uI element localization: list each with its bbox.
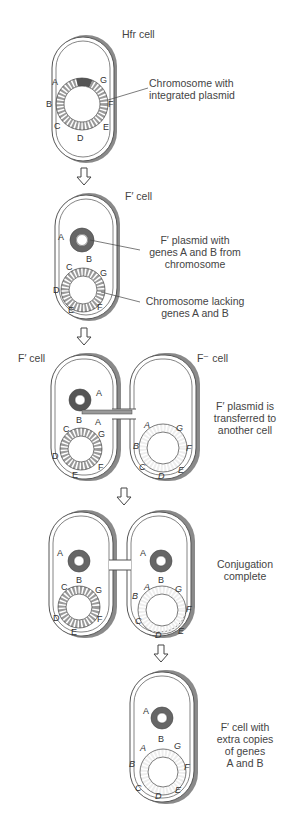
down-arrow-icon: [117, 488, 131, 505]
f-prime-cell-label: F′ cell: [125, 190, 152, 202]
svg-text:D: D: [53, 285, 60, 295]
svg-text:F: F: [97, 614, 103, 624]
f-prime-cell: A B C G D E F: [53, 193, 140, 321]
svg-text:C: C: [135, 616, 142, 626]
svg-text:G: G: [174, 741, 181, 751]
svg-text:D: D: [52, 451, 59, 461]
svg-text:F: F: [97, 302, 103, 312]
svg-text:A: A: [57, 548, 63, 558]
svg-text:B: B: [129, 759, 135, 769]
svg-text:A: A: [52, 77, 58, 87]
hfr-cell-label: Hfr cell: [122, 28, 155, 40]
svg-text:D: D: [155, 791, 162, 801]
svg-text:B: B: [133, 441, 139, 451]
svg-text:F: F: [186, 443, 192, 453]
svg-text:E: E: [71, 627, 77, 637]
chromosome-callout-line1: Chromosome with: [149, 77, 234, 89]
svg-text:E: E: [175, 785, 182, 795]
svg-text:A: A: [140, 548, 146, 558]
down-arrow-icon: [77, 168, 91, 185]
svg-text:D: D: [155, 630, 162, 640]
svg-text:B: B: [46, 99, 52, 109]
svg-text:C: C: [54, 121, 61, 131]
svg-text:B: B: [158, 575, 164, 585]
complete-caption: Conjugation complete: [205, 558, 285, 582]
down-arrow-icon: [154, 645, 168, 662]
complete-stage: A B C G D F E A B A G B F C E D: [49, 510, 195, 640]
result-caption: F′ cell with extra copies of genes A and…: [205, 721, 285, 769]
svg-text:G: G: [98, 429, 105, 439]
svg-text:D: D: [53, 613, 60, 623]
svg-text:G: G: [175, 584, 182, 594]
svg-text:G: G: [100, 75, 107, 85]
down-arrow-icon: [77, 328, 91, 345]
svg-text:F: F: [108, 99, 114, 109]
svg-text:G: G: [100, 268, 107, 278]
svg-text:F: F: [98, 462, 104, 472]
svg-text:E: E: [178, 626, 185, 636]
svg-text:B: B: [86, 254, 92, 264]
svg-text:B: B: [132, 591, 138, 601]
svg-text:D: D: [158, 471, 165, 481]
svg-text:F: F: [184, 762, 190, 772]
hfr-cell: A G B F C E D: [46, 35, 148, 163]
svg-text:B: B: [76, 575, 82, 585]
recipient-cell-label: F⁻ cell: [197, 352, 228, 364]
svg-text:G: G: [95, 585, 102, 595]
svg-text:E: E: [68, 305, 74, 315]
svg-text:E: E: [72, 470, 78, 480]
svg-text:A: A: [139, 743, 146, 753]
svg-text:C: C: [139, 462, 146, 472]
svg-text:A: A: [143, 420, 150, 430]
svg-text:C: C: [61, 582, 68, 592]
svg-text:D: D: [77, 133, 84, 143]
donor-cell-label: F′ cell: [18, 352, 45, 364]
svg-text:C: C: [66, 262, 73, 272]
svg-text:E: E: [103, 122, 109, 132]
svg-text:C: C: [135, 783, 142, 793]
svg-text:B: B: [158, 734, 164, 744]
chromosome-callout-line2: integrated plasmid: [149, 89, 235, 101]
transfer-caption: F′ plasmid is transferred to another cel…: [205, 400, 285, 436]
svg-text:A: A: [95, 417, 101, 427]
f-prime-plasmid-callout: F′ plasmid with genes A and B from chrom…: [140, 234, 250, 270]
svg-text:C: C: [63, 424, 70, 434]
chromosome-lacking-callout: Chromosome lacking genes A and B: [140, 295, 250, 319]
svg-text:E: E: [178, 465, 185, 475]
svg-text:A: A: [96, 388, 102, 398]
svg-text:A: A: [58, 232, 64, 242]
svg-text:B: B: [76, 415, 82, 425]
svg-text:G: G: [176, 423, 183, 433]
result-cell: A B A G B F C E D: [129, 670, 198, 804]
transfer-stage: A B A C G D F E A G B F C E D: [51, 353, 200, 481]
svg-text:A: A: [143, 706, 149, 716]
svg-text:F: F: [186, 604, 192, 614]
svg-text:A: A: [143, 582, 150, 592]
